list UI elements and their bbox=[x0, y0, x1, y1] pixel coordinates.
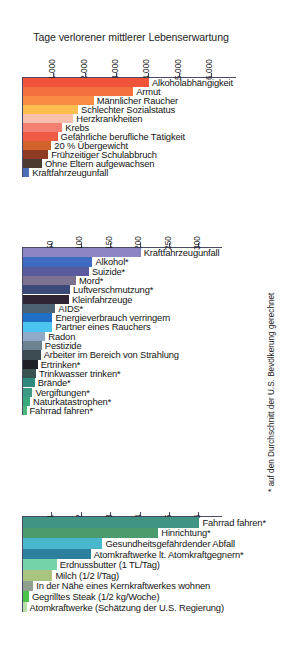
bar bbox=[23, 581, 33, 592]
bar-label: Kraftfahrzeugunfall bbox=[144, 247, 220, 258]
bar bbox=[23, 350, 41, 359]
x-axis-tick-label: 1.000 bbox=[47, 59, 57, 80]
bar bbox=[23, 559, 57, 570]
bar-label: Fahrrad fahren* bbox=[202, 517, 265, 528]
bar bbox=[23, 538, 102, 549]
x-axis-tick-label: 4.000 bbox=[141, 59, 151, 80]
life-expectancy-bar-chart-figure: Tage verlorener mittlerer Lebenserwartun… bbox=[0, 0, 295, 658]
bar bbox=[23, 78, 149, 87]
y-axis-spine bbox=[22, 247, 23, 415]
bar bbox=[23, 602, 27, 613]
chart-title: Tage verlorener mittlerer Lebenserwartun… bbox=[0, 31, 262, 43]
bar bbox=[23, 168, 29, 177]
bar-label: Alkoholabhängigkeit bbox=[152, 77, 233, 88]
bar-label: Fahrrad fahren* bbox=[30, 405, 93, 416]
bar bbox=[23, 341, 42, 350]
bar bbox=[23, 406, 27, 415]
y-axis-spine bbox=[22, 516, 23, 612]
bar bbox=[23, 360, 38, 369]
footnote-text: * auf den Durchschnitt der U.S. Bevölker… bbox=[267, 293, 276, 492]
bar bbox=[23, 123, 62, 132]
bar-label: Atomkraftwerke (Schätzung der U.S. Regie… bbox=[30, 602, 224, 613]
bar bbox=[23, 517, 199, 528]
bar bbox=[23, 257, 92, 266]
bar bbox=[23, 378, 35, 387]
bar bbox=[23, 105, 78, 114]
bar bbox=[23, 528, 158, 539]
bar bbox=[23, 591, 29, 602]
bar-label: Gesundheitsgefährdender Abfall bbox=[105, 538, 234, 549]
bar-label: In der Nähe eines Kernkraftwerkes wohnen bbox=[36, 580, 210, 591]
bar bbox=[23, 313, 52, 322]
x-axis-tick-label: 2.000 bbox=[79, 59, 89, 80]
bar bbox=[23, 304, 55, 313]
bar-label: Hinrichtung* bbox=[161, 527, 210, 538]
bar bbox=[23, 285, 70, 294]
bar bbox=[23, 141, 51, 150]
bar-label: Erdnussbutter (1 TL/Tag) bbox=[60, 559, 160, 570]
bar bbox=[23, 369, 36, 378]
y-axis-spine bbox=[22, 77, 23, 177]
bar bbox=[23, 549, 91, 560]
bar-label: Atomkraftwerke lt. Atomkraftgegnern* bbox=[94, 549, 244, 560]
bar-label: Milch (1/2 l/Tag) bbox=[55, 570, 119, 581]
bar bbox=[23, 570, 52, 581]
bar bbox=[23, 388, 32, 397]
x-axis-tick-label: 3.000 bbox=[110, 59, 120, 80]
bar bbox=[23, 332, 45, 341]
bar-label: Gegrilltes Steak (1/2 kg/Woche) bbox=[32, 591, 160, 602]
bar-label: Kraftfahrzeugunfall bbox=[32, 167, 108, 178]
bar bbox=[23, 132, 58, 141]
bar bbox=[23, 276, 76, 285]
